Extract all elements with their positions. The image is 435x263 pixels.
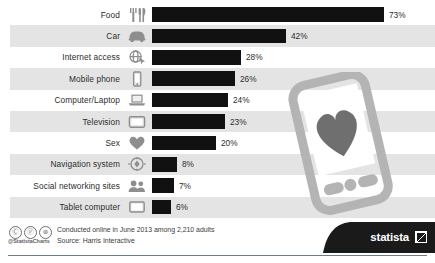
category-label: Sex <box>0 138 120 148</box>
bar-track: 23% <box>152 114 431 129</box>
cutlery-icon <box>126 6 148 24</box>
statista-logo-text: statista <box>370 231 409 243</box>
category-label: Internet access <box>0 52 120 62</box>
tablet-icon <box>126 198 148 216</box>
bar <box>152 136 216 151</box>
bar-row: Computer/Laptop 24% <box>0 90 435 111</box>
chart-source-note: Conducted online in June 2013 among 2,21… <box>57 225 214 246</box>
statista-handle: @StatistaCharts <box>8 238 50 244</box>
bar-row: Internet access 28% <box>0 47 435 68</box>
bar-chart-rows: Food 73% Car 42% Internet access <box>0 4 435 218</box>
statista-logo-mark <box>415 231 427 243</box>
bar-value-label: 73% <box>389 10 406 20</box>
category-label: Mobile phone <box>0 74 120 84</box>
bar-row: Navigation system 8% <box>0 154 435 175</box>
bar-value-label: 7% <box>179 181 191 191</box>
category-label: Television <box>0 117 120 127</box>
globe-cursor-icon <box>126 48 148 66</box>
heart-icon <box>126 134 148 152</box>
bar <box>152 50 241 65</box>
bar-value-label: 24% <box>233 95 250 105</box>
category-label: Social networking sites <box>0 181 120 191</box>
bar-track: 8% <box>152 157 431 172</box>
footer-divider <box>8 255 427 256</box>
bar-track: 28% <box>152 50 431 65</box>
mobile-phone-icon <box>126 70 148 88</box>
source-note: Source: Harris Interactive <box>57 236 214 247</box>
bar-value-label: 28% <box>246 52 263 62</box>
bar-track: 42% <box>152 29 431 44</box>
television-icon <box>126 113 148 131</box>
category-label: Food <box>0 10 120 20</box>
navigation-compass-icon <box>126 155 148 173</box>
bar <box>152 29 286 44</box>
bar <box>152 71 235 86</box>
bar <box>152 157 177 172</box>
bar-value-label: 20% <box>221 138 238 148</box>
bar-row: Mobile phone 26% <box>0 68 435 89</box>
bar-row: Food 73% <box>0 4 435 25</box>
bar-value-label: 26% <box>240 74 257 84</box>
category-label: Navigation system <box>0 159 120 169</box>
bar-row: Sex 20% <box>0 132 435 153</box>
bar-track: 7% <box>152 178 431 193</box>
category-label: Car <box>0 31 120 41</box>
bar <box>152 178 174 193</box>
people-icon <box>126 177 148 195</box>
survey-note: Conducted online in June 2013 among 2,21… <box>57 225 214 236</box>
bar-value-label: 8% <box>182 159 194 169</box>
bar-row: Tablet computer 6% <box>0 197 435 218</box>
category-label: Computer/Laptop <box>0 95 120 105</box>
bar-row: Television 23% <box>0 111 435 132</box>
bar-track: 26% <box>152 71 431 86</box>
bar <box>152 114 225 129</box>
bar <box>152 7 384 22</box>
chart-footer: Ⓒ ⓟ ⊜ @StatistaCharts Conducted online i… <box>0 222 435 263</box>
bar-value-label: 6% <box>176 202 188 212</box>
bar-track: 20% <box>152 136 431 151</box>
bar <box>152 200 171 215</box>
bar-value-label: 42% <box>291 31 308 41</box>
statista-logo[interactable]: statista <box>323 222 435 253</box>
bar-row: Social networking sites 7% <box>0 175 435 196</box>
bar-track: 6% <box>152 200 431 215</box>
car-icon <box>126 27 148 45</box>
bar-track: 24% <box>152 93 431 108</box>
category-label: Tablet computer <box>0 202 120 212</box>
bar <box>152 93 228 108</box>
bar-value-label: 23% <box>230 117 247 127</box>
bar-row: Car 42% <box>0 25 435 46</box>
laptop-icon <box>126 91 148 109</box>
bar-track: 73% <box>152 7 431 22</box>
statista-chart: Food 73% Car 42% Internet access <box>0 0 435 263</box>
